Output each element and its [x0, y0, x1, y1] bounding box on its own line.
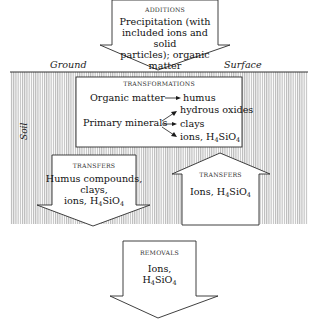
transfers-down-label: TRANSFERS Humus compounds, clays, ions, …: [44, 162, 144, 206]
organic-matter-label: Organic matter: [90, 92, 165, 103]
additions-line-3: particles); organic matter: [112, 49, 218, 71]
ions-silica-label: ions, H4SiO4: [180, 131, 240, 142]
humus-label: humus: [183, 92, 216, 103]
additions-line-2: included ions and solid: [112, 27, 218, 49]
primary-minerals-label: Primary minerals: [83, 117, 167, 128]
removals-caption: REMOVALS: [123, 249, 196, 256]
additions-caption: ADDITIONS: [112, 6, 218, 13]
additions-line-1: Precipitation (with: [112, 16, 218, 27]
transfers-up-label: TRANSFERS Ions, H4SiO4: [182, 171, 259, 197]
transfers-up-caption: TRANSFERS: [182, 171, 259, 178]
transformations-caption: TRANSFORMATIONS: [76, 80, 242, 87]
removals-line-2: H4SiO4: [123, 274, 196, 285]
transfers-up-line: Ions, H4SiO4: [182, 186, 259, 197]
transfers-down-line-2: clays,: [44, 184, 144, 195]
hydrous-oxides-label: hydrous oxides: [180, 104, 253, 115]
additions-label: ADDITIONS Precipitation (with included i…: [112, 6, 218, 71]
removals-line-1: Ions,: [123, 263, 196, 274]
removals-label: REMOVALS Ions, H4SiO4: [123, 249, 196, 285]
transfers-down-line-3: ions, H4SiO4: [44, 195, 144, 206]
transfers-down-line-1: Humus compounds,: [44, 173, 144, 184]
soil-label: Soil: [19, 123, 29, 140]
ground-label: Ground: [50, 59, 87, 70]
clays-label: clays: [180, 118, 205, 129]
surface-label: Surface: [224, 59, 262, 70]
transfers-down-caption: TRANSFERS: [44, 162, 144, 169]
